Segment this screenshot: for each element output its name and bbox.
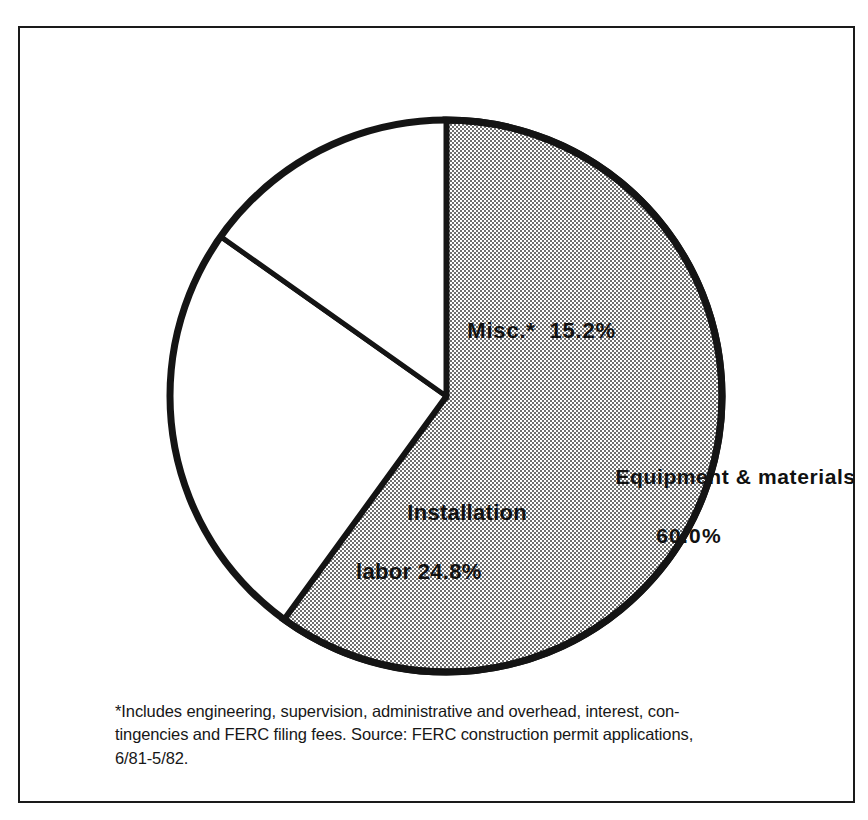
chart-frame-border: Equipment & materials 60.0% Misc.* 15.2%… <box>18 26 855 803</box>
pie-label-misc-text: Misc.* 15.2% <box>467 318 616 343</box>
pie-label-installation-name: Installation <box>407 500 527 525</box>
pie-label-equipment-name: Equipment & materials <box>615 465 855 488</box>
footnote-line-2: tingencies and FERC filing fees. Source:… <box>115 723 725 746</box>
figure-container: Equipment & materials 60.0% Misc.* 15.2%… <box>0 0 868 820</box>
pie-label-equipment-percent: 60.0% <box>564 522 814 549</box>
pie-label-installation-labor: Installation labor 24.8% <box>356 470 527 644</box>
chart-footnote: *Includes engineering, supervision, admi… <box>115 700 725 770</box>
pie-label-installation-percent: labor 24.8% <box>356 558 527 587</box>
footnote-line-1: *Includes engineering, supervision, admi… <box>115 700 725 723</box>
pie-label-misc: Misc.* 15.2% <box>412 288 616 374</box>
pie-label-equipment-materials: Equipment & materials 60.0% <box>564 436 814 604</box>
footnote-line-3: 6/81-5/82. <box>115 747 725 770</box>
pie-chart: Equipment & materials 60.0% Misc.* 15.2%… <box>160 106 740 691</box>
